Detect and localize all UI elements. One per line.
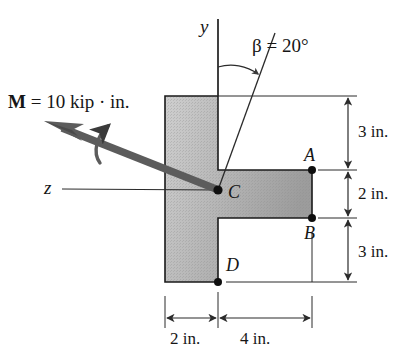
moment-value: = 10 kip · in. [26, 91, 130, 112]
dimension-label-width-2in: 2 in. [170, 330, 200, 347]
dimension-label-width-4in: 4 in. [240, 330, 270, 347]
point-label-a: A [304, 146, 315, 164]
point-C-dot [213, 185, 222, 194]
mechanics-figure: M = 10 kip · in. β = 20° y z A B C D 3 i… [0, 0, 411, 356]
moment-label: M = 10 kip · in. [8, 92, 130, 111]
z-axis-label: z [44, 178, 51, 197]
y-axis-label: y [200, 17, 208, 36]
point-A-dot [308, 166, 316, 174]
point-label-c: C [228, 183, 240, 201]
beta-angle-label: β = 20° [252, 36, 308, 55]
dimension-label-top-3in: 3 in. [358, 123, 388, 140]
bottom-extension-lines [165, 292, 312, 328]
dimension-label-2in: 2 in. [358, 185, 388, 202]
point-label-d: D [226, 256, 239, 274]
point-B-dot [308, 214, 316, 222]
figure-canvas [0, 0, 411, 356]
moment-symbol: M [8, 91, 26, 112]
dimension-label-bottom-3in: 3 in. [358, 243, 388, 260]
point-D-dot [214, 278, 222, 286]
point-label-b: B [304, 224, 315, 242]
beta-axis-line [218, 33, 275, 190]
beta-angle-arc [218, 65, 258, 74]
